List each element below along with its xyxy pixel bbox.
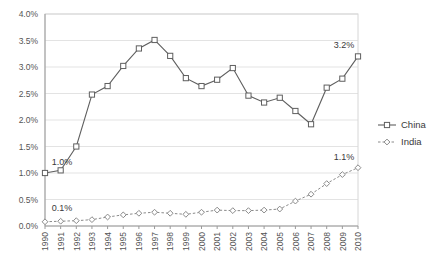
data-point-india: [136, 210, 142, 216]
data-point-china: [152, 37, 157, 42]
data-point-india: [42, 219, 48, 225]
legend-marker-square: [384, 122, 389, 127]
x-axis-tick-label: 2003: [244, 232, 254, 251]
y-axis-tick-label: 1.0%: [19, 168, 39, 178]
data-point-china: [355, 54, 360, 59]
x-axis-tick-label: 2005: [275, 232, 285, 251]
x-axis-tick-label: 2009: [338, 232, 348, 251]
data-point-india: [230, 208, 236, 214]
x-axis-tick-label: 1997: [150, 232, 160, 251]
data-point-india: [277, 206, 283, 212]
data-point-india: [89, 217, 95, 223]
y-axis-tick-label: 1.5%: [19, 142, 39, 152]
data-point-china: [230, 65, 235, 70]
data-point-china: [324, 85, 329, 90]
data-point-china: [74, 144, 79, 149]
data-point-china: [42, 170, 47, 175]
y-axis-tick-label: 4.0%: [19, 9, 39, 19]
x-axis-tick-label: 2008: [322, 232, 332, 251]
data-point-china: [168, 53, 173, 58]
data-point-china: [136, 46, 141, 51]
data-point-india: [246, 208, 252, 214]
data-point-china: [262, 100, 267, 105]
x-axis-tick-label: 2000: [197, 232, 207, 251]
data-point-china: [183, 76, 188, 81]
legend-label: China: [401, 119, 427, 130]
data-point-india: [214, 207, 220, 213]
y-axis-tick-label: 0.5%: [19, 195, 39, 205]
data-point-india: [167, 210, 173, 216]
x-axis-tick-label: 1999: [181, 232, 191, 251]
legend-item-china[interactable]: China: [378, 119, 427, 130]
legend-marker-diamond: [384, 139, 390, 145]
data-point-china: [308, 122, 313, 127]
data-point-india: [120, 212, 126, 218]
x-axis-tick-label: 2006: [291, 232, 301, 251]
data-point-china: [89, 92, 94, 97]
data-point-india: [105, 214, 111, 220]
x-axis-tick-label: 1990: [40, 232, 50, 251]
x-axis-tick-label: 1996: [134, 232, 144, 251]
data-point-china: [199, 83, 204, 88]
data-point-india: [261, 207, 267, 213]
data-point-china: [58, 168, 63, 173]
legend-item-india[interactable]: India: [378, 136, 422, 147]
y-axis-tick-label: 3.0%: [19, 62, 39, 72]
data-point-india: [152, 209, 158, 215]
x-axis-tick-label: 1995: [118, 232, 128, 251]
x-axis-tick-label: 1993: [87, 232, 97, 251]
x-axis-tick-label: 2001: [212, 232, 222, 251]
data-label-annotation: 0.1%: [52, 203, 73, 213]
chart-container: 0.0%0.5%1.0%1.5%2.0%2.5%3.0%3.5%4.0%1990…: [0, 0, 434, 269]
x-axis-tick-label: 2002: [228, 232, 238, 251]
data-point-china: [340, 76, 345, 81]
data-point-india: [183, 211, 189, 217]
data-point-china: [121, 63, 126, 68]
y-axis-tick-label: 0.0%: [19, 221, 39, 231]
data-label-annotation: 1.0%: [52, 157, 73, 167]
data-point-india: [58, 218, 64, 224]
data-point-china: [246, 93, 251, 98]
data-label-annotation: 3.2%: [334, 40, 355, 50]
data-point-india: [199, 209, 205, 215]
legend-label: India: [401, 136, 422, 147]
data-point-india: [355, 165, 361, 171]
data-point-china: [293, 108, 298, 113]
x-axis-tick-label: 2010: [353, 232, 363, 251]
x-axis-tick-label: 1992: [72, 232, 82, 251]
data-point-india: [308, 191, 314, 197]
x-axis-tick-label: 2004: [259, 232, 269, 251]
y-axis-tick-label: 3.5%: [19, 36, 39, 46]
x-axis-tick-label: 2007: [306, 232, 316, 251]
line-chart: 0.0%0.5%1.0%1.5%2.0%2.5%3.0%3.5%4.0%1990…: [0, 0, 434, 269]
data-point-china: [215, 77, 220, 82]
series-line-china: [45, 40, 358, 173]
data-point-china: [277, 95, 282, 100]
y-axis-tick-label: 2.0%: [19, 115, 39, 125]
y-axis-tick-label: 2.5%: [19, 89, 39, 99]
x-axis-tick-label: 1998: [165, 232, 175, 251]
data-point-india: [73, 218, 79, 224]
data-point-india: [324, 181, 330, 187]
data-label-annotation: 1.1%: [334, 152, 355, 162]
data-point-china: [105, 83, 110, 88]
x-axis-tick-label: 1991: [56, 232, 66, 251]
x-axis-tick-label: 1994: [103, 232, 113, 251]
